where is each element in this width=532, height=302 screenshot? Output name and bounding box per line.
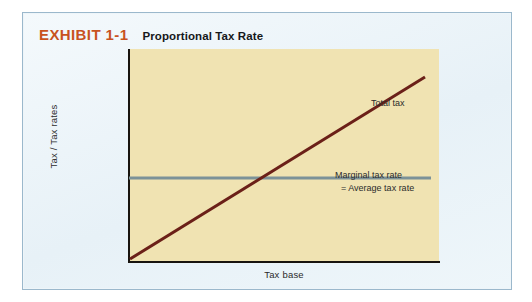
chart-region: Total tax Marginal tax rate = Average ta… [23,13,513,291]
exhibit-frame: EXHIBIT 1-1 Proportional Tax Rate Total … [22,12,512,290]
series-label-marginal-average: Marginal tax rate = Average tax rate [335,169,414,195]
series-label-marginal-tax-rate: Marginal tax rate [335,169,414,182]
page-title: Proportional Tax Rate [142,30,263,42]
y-axis-title: Tax / Tax rates [48,77,59,197]
x-axis-line [128,261,440,263]
exhibit-number: EXHIBIT 1-1 [39,26,128,43]
exhibit-header: EXHIBIT 1-1 Proportional Tax Rate [39,26,263,43]
x-axis-title: Tax base [129,269,439,280]
series-label-total-tax: Total tax [371,98,405,108]
series-label-average-tax-rate: = Average tax rate [335,182,414,195]
chart-series-layer [129,49,439,261]
